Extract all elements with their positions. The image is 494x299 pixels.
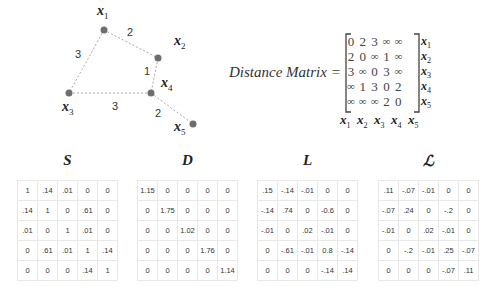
table-row: .11-.07-.0100 [379, 181, 479, 201]
matrix-cell: 1 [18, 181, 38, 201]
matrix-cell: 0 [439, 181, 459, 201]
matrix-title-s: S [17, 152, 118, 169]
matrix-normalized-l: .11-.07-.0100-.07.240-.20-.010.02-.0100-… [378, 180, 479, 281]
edge-x1-x3 [69, 30, 104, 93]
distance-matrix-cell: ∞ [345, 94, 357, 109]
distance-matrix-row: ∞1302 [345, 79, 404, 94]
matrix-d: 1.15000001.75000001.02000001.76000001.14 [137, 180, 238, 281]
matrix-cell: 0 [218, 181, 238, 201]
distance-matrix-cell: ∞ [392, 64, 404, 79]
matrix-cell: -.01 [258, 221, 278, 241]
table-row: 1.150000 [138, 181, 238, 201]
edge-weight-x1-x2: 2 [127, 26, 133, 38]
distance-matrix-cell: ∞ [369, 49, 381, 64]
matrix-cell: 0 [399, 221, 419, 241]
matrix-l: .15-.14-.0100-.14.740-0.60-.010.02-.0100… [257, 180, 358, 281]
matrix-cell: 0 [198, 181, 218, 201]
matrix-cell: 0 [198, 221, 218, 241]
distance-matrix-col-label: x4 [391, 112, 406, 130]
matrix-cell: -.14 [338, 241, 358, 261]
distance-matrix-row-label: x3 [421, 64, 431, 79]
node-x5 [190, 121, 197, 128]
matrix-cell: 0 [178, 201, 198, 221]
table-row: .1410.610 [18, 201, 118, 221]
matrix-cell: 0 [38, 261, 58, 281]
distance-matrix-col-label: x1 [340, 112, 355, 130]
matrix-cell: .01 [58, 181, 78, 201]
distance-matrix-cell: 0 [357, 49, 369, 64]
table-row: -.07.240-.20 [379, 201, 479, 221]
matrix-cell: .01 [58, 241, 78, 261]
distance-matrix-col-label: x3 [374, 112, 389, 130]
matrix-cell: 0 [419, 261, 439, 281]
matrix-cell: -.01 [419, 181, 439, 201]
matrix-cell: 0 [18, 241, 38, 261]
matrix-cell: 0 [218, 201, 238, 221]
node-label-x3: x3 [62, 99, 74, 117]
matrix-cell: 0 [218, 221, 238, 241]
matrix-cell: 0 [158, 181, 178, 201]
node-label-x1: x1 [97, 3, 109, 21]
matrix-cell: -.2 [399, 241, 419, 261]
table-row: -.010.02-.010 [379, 221, 479, 241]
table-row: .0101.010 [18, 221, 118, 241]
matrix-cell: 0 [338, 181, 358, 201]
distance-matrix: 023∞∞20∞1∞3∞03∞∞1302∞∞∞20 [345, 34, 404, 109]
distance-matrix-cell: 3 [369, 79, 381, 94]
distance-matrix-cell: 2 [381, 94, 393, 109]
distance-matrix-cell: 2 [392, 79, 404, 94]
matrix-cell: 0 [138, 261, 158, 281]
matrix-cell: 1 [38, 201, 58, 221]
table-row: 00001.14 [138, 261, 238, 281]
matrix-cell: .14 [38, 181, 58, 201]
distance-matrix-cell: 3 [345, 64, 357, 79]
matrix-s: 1.14.0100.1410.610.0101.0100.61.011.1400… [17, 180, 118, 281]
distance-matrix-cell: ∞ [369, 94, 381, 109]
matrix-cell: -0.6 [318, 201, 338, 221]
matrix-cell: 0 [78, 181, 98, 201]
matrix-cell: 1.14 [218, 261, 238, 281]
edge-weight-x4-x5: 2 [155, 107, 161, 119]
matrix-cell: -.07 [379, 201, 399, 221]
table-row: -.010.02-.010 [258, 221, 358, 241]
table-row: .15-.14-.0100 [258, 181, 358, 201]
distance-matrix-cell: ∞ [357, 94, 369, 109]
matrix-cell: 0 [278, 261, 298, 281]
matrix-cell: -.01 [439, 221, 459, 241]
matrix-cell: 1 [78, 241, 98, 261]
matrix-cell: 1.15 [138, 181, 158, 201]
distance-matrix-col-label: x5 [408, 112, 423, 130]
distance-matrix-col-labels: x1x2x3x4x5 [340, 112, 423, 130]
node-x3 [66, 90, 73, 97]
distance-matrix-cell: 1 [381, 49, 393, 64]
distance-matrix-row: 20∞1∞ [345, 49, 404, 64]
node-x4 [148, 90, 155, 97]
matrix-cell: -.14 [278, 181, 298, 201]
matrix-cell: .02 [298, 221, 318, 241]
matrix-cell: .74 [278, 201, 298, 221]
matrix-cell: 0 [379, 261, 399, 281]
matrix-title-d: D [137, 152, 238, 169]
matrix-cell: 0 [178, 181, 198, 201]
matrix-cell: 0 [178, 241, 198, 261]
matrix-cell: 0 [58, 201, 78, 221]
matrix-cell: .01 [78, 221, 98, 241]
matrix-cell: 0.8 [318, 241, 338, 261]
matrix-cell: 0 [318, 181, 338, 201]
matrix-cell: 1 [58, 221, 78, 241]
node-label-x4: x4 [161, 75, 173, 93]
edge-x2-x4 [151, 58, 158, 93]
matrix-cell: .01 [18, 221, 38, 241]
matrix-cell: 0 [298, 201, 318, 221]
distance-matrix-cell: 0 [369, 64, 381, 79]
matrix-cell: 0 [98, 181, 118, 201]
matrix-cell: 0 [379, 241, 399, 261]
matrix-cell: -.01 [318, 221, 338, 241]
matrix-cell: .02 [419, 221, 439, 241]
matrix-cell: 0 [98, 221, 118, 241]
table-row: 000-.07.11 [379, 261, 479, 281]
distance-matrix-row-label: x2 [421, 49, 431, 64]
matrix-cell: 0 [258, 261, 278, 281]
matrix-cell: 0 [158, 241, 178, 261]
distance-matrix-cell: ∞ [381, 34, 393, 49]
